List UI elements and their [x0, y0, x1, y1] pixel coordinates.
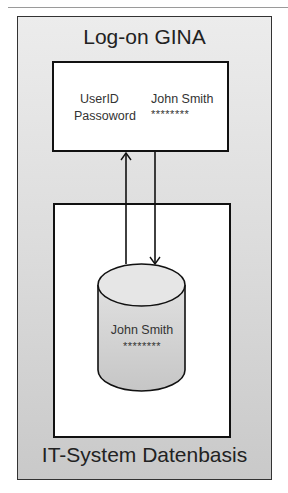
database-user-name: John Smith [98, 323, 186, 337]
connectors-and-cylinder [0, 0, 288, 493]
arrow-up-icon [121, 153, 131, 264]
arrow-down-icon [150, 152, 160, 264]
diagram-footer: IT-System Datenbasis [17, 443, 272, 467]
database-password: ******** [98, 340, 186, 352]
